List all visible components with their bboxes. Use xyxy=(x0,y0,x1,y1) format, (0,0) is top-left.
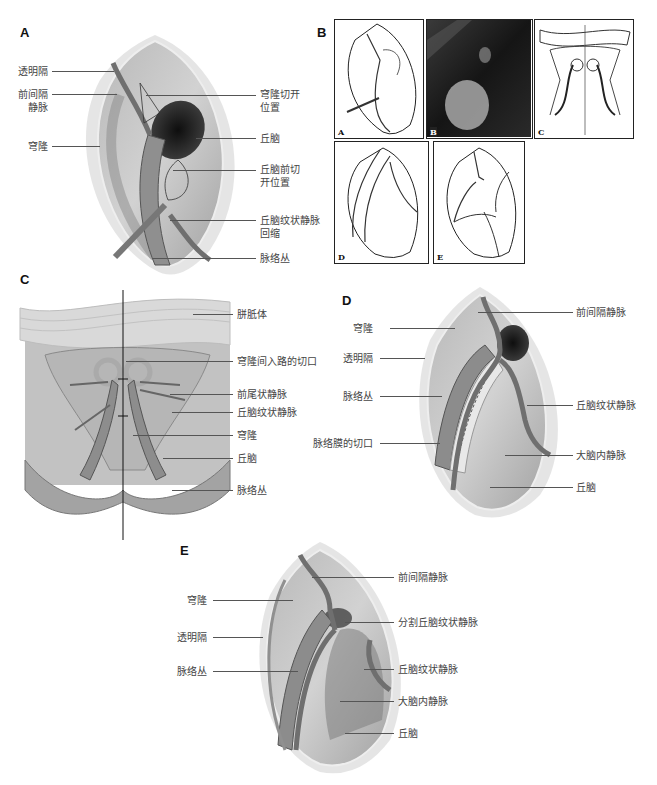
label-anterior-thalamic-incision-site: 丘脑前切 开位置 xyxy=(260,163,300,189)
thumbnail-c: C xyxy=(534,19,634,139)
label-choroid-plexus: 脉络丛 xyxy=(343,390,373,403)
label-thalamus: 丘脑 xyxy=(237,452,257,465)
label-septum-pellucidum: 透明隔 xyxy=(177,631,207,644)
panel-letter-e: E xyxy=(180,543,189,558)
label-septum-pellucidum: 透明隔 xyxy=(18,65,48,78)
label-anterior-septal-vein: 前间隔静脉 xyxy=(398,571,448,584)
label-divided-thalamostriate-vein: 分割丘脑纹状静脉 xyxy=(398,616,478,629)
leader-line xyxy=(146,95,256,96)
thumbnail-b: B xyxy=(426,19,533,139)
leader-line xyxy=(345,733,394,734)
sketch-e xyxy=(434,142,526,265)
label-choroid-plexus: 脉络丛 xyxy=(237,484,267,497)
label-anterior-septal-vein: 前间隔静脉 xyxy=(576,306,626,319)
leader-line xyxy=(133,435,233,436)
label-internal-cerebral-vein: 大脑内静脉 xyxy=(398,695,448,708)
label-thalamus: 丘脑 xyxy=(576,481,596,494)
leader-line xyxy=(380,358,425,359)
leader-line xyxy=(170,394,233,395)
leader-line xyxy=(312,577,394,578)
leader-line xyxy=(380,443,440,444)
leader-line xyxy=(527,405,573,406)
label-thalamostriate-vein-retracted: 丘脑纹状静脉 回缩 xyxy=(260,214,320,240)
panel-letter-b: B xyxy=(317,25,326,40)
label-thalamostriate-vein: 丘脑纹状静脉 xyxy=(398,663,458,676)
thumbnail-a: A xyxy=(334,19,424,139)
leader-line xyxy=(364,669,394,670)
leader-line xyxy=(152,258,256,259)
panel-letter-d: D xyxy=(342,293,351,308)
sketch-a xyxy=(335,20,425,140)
leader-line xyxy=(163,458,233,459)
leader-line xyxy=(52,94,117,95)
label-internal-cerebral-vein: 大脑内静脉 xyxy=(576,449,626,462)
leader-line xyxy=(213,600,293,601)
label-interforniceal-incision: 穹隆间入路的切口 xyxy=(237,355,317,368)
leader-line xyxy=(490,487,573,488)
label-thalamostriate-vein: 丘脑纹状静脉 xyxy=(576,399,636,412)
leader-line xyxy=(213,637,263,638)
label-choroid-plexus: 脉络丛 xyxy=(260,252,290,265)
leader-line xyxy=(390,328,455,329)
leader-line xyxy=(478,312,573,313)
label-anterior-caudate-vein: 前尾状静脉 xyxy=(237,388,287,401)
label-thalamus: 丘脑 xyxy=(260,132,280,145)
leader-line xyxy=(196,138,256,139)
label-fornix: 穹隆 xyxy=(353,322,373,335)
leader-line xyxy=(345,622,394,623)
leader-line xyxy=(52,146,100,147)
leader-line xyxy=(172,412,233,413)
label-corpus-callosum: 胼胝体 xyxy=(237,308,267,321)
sketch-c xyxy=(535,20,635,140)
leader-line xyxy=(173,170,256,171)
leader-line xyxy=(213,671,298,672)
sketch-d xyxy=(335,142,430,265)
thumbnail-e: E xyxy=(433,141,525,264)
panel-letter-a: A xyxy=(20,25,29,40)
leader-line xyxy=(170,220,256,221)
label-septum-pellucidum: 透明隔 xyxy=(343,352,373,365)
leader-line xyxy=(126,361,233,362)
panel-a-illustration xyxy=(60,25,250,275)
thumbnail-d: D xyxy=(334,141,429,264)
leader-line xyxy=(340,701,394,702)
thumbnail-letter: C xyxy=(538,127,544,137)
thumbnail-letter: E xyxy=(437,252,443,262)
leader-line xyxy=(52,71,114,72)
panel-c-illustration xyxy=(20,290,235,540)
label-fornix-incision-site: 穹隆切开 位置 xyxy=(260,88,300,114)
label-anterior-septal-vein: 前间隔 静脉 xyxy=(18,88,48,114)
label-fornix: 穹隆 xyxy=(28,140,48,153)
leader-line xyxy=(193,314,233,315)
panel-letter-c: C xyxy=(20,272,29,287)
label-fornix: 穹隆 xyxy=(237,429,257,442)
endoscopic-photo xyxy=(427,20,531,137)
leader-line xyxy=(505,455,573,456)
thumbnail-letter: A xyxy=(338,127,344,137)
label-thalamus: 丘脑 xyxy=(398,727,418,740)
label-choroidal-fissure-incision: 脉络膜的切口 xyxy=(313,437,373,450)
thumbnail-letter: D xyxy=(338,252,345,262)
leader-line xyxy=(380,396,442,397)
thumbnail-letter: B xyxy=(430,127,437,137)
label-choroid-plexus: 脉络丛 xyxy=(177,665,207,678)
leader-line xyxy=(172,490,233,491)
label-fornix: 穹隆 xyxy=(187,594,207,607)
label-thalamostriate-vein: 丘脑纹状静脉 xyxy=(237,406,297,419)
